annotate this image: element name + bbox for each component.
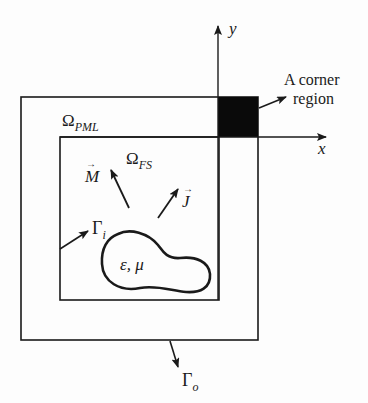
outer-boundary-arrow — [170, 341, 178, 367]
outer-boundary-subscript: o — [192, 380, 198, 394]
inner-boundary-subscript: i — [102, 228, 105, 242]
electric-source-label: J — [182, 193, 190, 210]
scatterer-label: ε, μ — [120, 256, 144, 273]
fs-region-label: ΩFS — [126, 150, 152, 167]
corner-region — [218, 97, 258, 137]
electric-source-symbol: J — [182, 193, 190, 210]
magnetic-source-arrow — [111, 170, 129, 208]
inner-boundary-symbol: Γ — [92, 218, 102, 238]
inner-boundary-arrow — [60, 231, 88, 249]
inner-boundary-label: Γi — [92, 219, 106, 237]
fs-symbol: Ω — [126, 149, 139, 168]
corner-pointer-arrow — [259, 97, 286, 108]
pml-symbol: Ω — [62, 111, 75, 130]
y-axis-label: y — [229, 20, 237, 37]
pml-region-label: ΩPML — [62, 112, 99, 129]
corner-label-line2: region — [293, 91, 334, 107]
pml-domain-diagram: y x A corner region ΩPML ΩFS M J Γi ε, μ… — [0, 0, 368, 403]
fs-subscript: FS — [139, 158, 152, 172]
magnetic-source-symbol: M — [85, 168, 99, 185]
scatterer-outline — [102, 231, 210, 292]
corner-label-line1: A corner — [284, 72, 340, 88]
magnetic-source-label: M — [85, 168, 99, 185]
x-axis-label: x — [318, 140, 326, 157]
outer-boundary-symbol: Γ — [182, 370, 192, 390]
outer-boundary-label: Γo — [182, 371, 198, 389]
pml-subscript: PML — [75, 120, 99, 134]
electric-source-arrow — [158, 189, 178, 218]
